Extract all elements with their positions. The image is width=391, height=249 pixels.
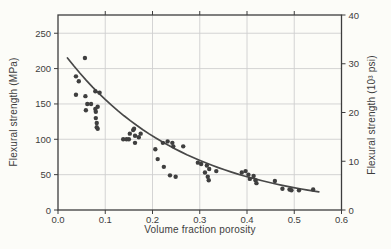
right-tick-label: 10 [349, 156, 360, 167]
data-point [311, 187, 315, 191]
data-point [74, 93, 78, 97]
y-axis-label-left: Flexural strength (MPa) [8, 57, 19, 166]
data-point [127, 137, 131, 141]
left-tick-label: 50 [40, 169, 51, 180]
data-point [273, 179, 277, 183]
data-point [240, 170, 244, 174]
data-point [133, 141, 137, 145]
data-point [162, 165, 166, 169]
left-tick-label: 200 [35, 63, 51, 74]
left-tick-label: 0 [46, 205, 51, 216]
data-point [77, 79, 81, 83]
data-point [173, 175, 177, 179]
data-point [248, 177, 252, 181]
data-point [199, 162, 203, 166]
data-point [132, 126, 136, 130]
left-tick-label: 150 [35, 98, 51, 109]
data-point [95, 126, 99, 130]
data-point [254, 181, 258, 185]
data-point [85, 102, 89, 106]
left-tick-label: 100 [35, 134, 51, 145]
data-point [94, 110, 98, 114]
data-point [165, 139, 169, 143]
data-point [246, 172, 250, 176]
data-point [214, 169, 218, 173]
data-point [83, 56, 87, 60]
data-point [171, 144, 175, 148]
data-point [297, 188, 301, 192]
data-point [93, 89, 97, 93]
data-point [74, 74, 78, 78]
data-point [89, 102, 93, 106]
flexural-strength-vs-porosity-chart: 0.00.10.20.30.40.50.60501001502002500102… [0, 0, 391, 249]
data-point [161, 141, 165, 145]
right-tick-label: 0 [349, 205, 354, 216]
plot-area: 0.00.10.20.30.40.50.60501001502002500102… [0, 0, 391, 249]
data-point [97, 90, 101, 94]
x-axis-label: Volume fraction porosity [58, 224, 342, 235]
data-point [128, 131, 132, 135]
data-point [83, 94, 87, 98]
data-point [207, 167, 211, 171]
data-point [181, 144, 185, 148]
data-point [207, 178, 211, 182]
data-point [156, 157, 160, 161]
data-point [289, 188, 293, 192]
data-point [94, 116, 98, 120]
data-point [203, 170, 207, 174]
right-tick-label: 30 [349, 58, 360, 69]
right-tick-label: 20 [349, 107, 360, 118]
data-point [95, 121, 99, 125]
data-point [243, 169, 247, 173]
data-point [133, 134, 137, 138]
data-point [251, 174, 255, 178]
data-point [168, 173, 172, 177]
y-axis-label-right: Flexural strength (10³ psi) [366, 55, 377, 174]
data-point [138, 131, 142, 135]
left-tick-label: 250 [35, 28, 51, 39]
data-point [153, 147, 157, 151]
data-point [84, 108, 88, 112]
data-point [280, 187, 284, 191]
right-tick-label: 40 [349, 10, 360, 21]
